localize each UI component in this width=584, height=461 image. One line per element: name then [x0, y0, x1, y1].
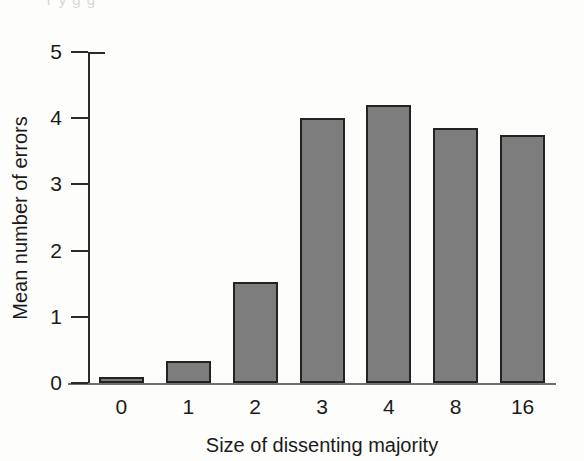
x-tick-label: 0	[91, 396, 151, 417]
bar	[300, 118, 345, 383]
scan-bleed-artifact: T y g g	[44, 0, 544, 11]
x-tick-label: 3	[292, 396, 352, 417]
figure-canvas: T y g g Mean number of errors 012345 012…	[0, 0, 584, 461]
y-tick-mark	[71, 250, 88, 252]
y-tick-mark	[71, 117, 88, 119]
y-tick-label: 5	[22, 41, 62, 62]
x-axis-title: Size of dissenting majority	[88, 434, 556, 457]
bar	[433, 128, 478, 383]
bar	[166, 361, 211, 383]
y-tick-label: 1	[22, 306, 62, 327]
bar	[99, 377, 144, 383]
y-tick-mark	[71, 382, 88, 384]
bar	[366, 105, 411, 383]
x-tick-label: 16	[493, 396, 553, 417]
x-axis-line	[68, 383, 556, 385]
x-tick-label: 4	[359, 396, 419, 417]
x-tick-label: 2	[225, 396, 285, 417]
y-tick-label: 2	[22, 240, 62, 261]
bar	[233, 282, 278, 383]
bar	[500, 135, 545, 383]
y-tick-mark	[71, 183, 88, 185]
y-tick-label: 0	[22, 372, 62, 393]
bar-series	[88, 52, 556, 383]
x-tick-label: 1	[158, 396, 218, 417]
y-tick-mark	[71, 316, 88, 318]
y-tick-mark	[71, 51, 88, 53]
x-tick-label: 8	[426, 396, 486, 417]
plot-area: Mean number of errors 012345 01234816 Si…	[88, 52, 556, 383]
y-tick-label: 4	[22, 107, 62, 128]
y-tick-label: 3	[22, 173, 62, 194]
